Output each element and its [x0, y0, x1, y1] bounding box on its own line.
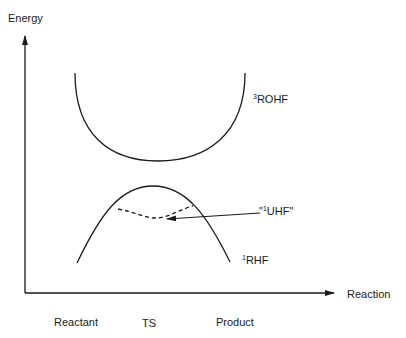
x-tick-ts-text: TS — [142, 317, 156, 329]
x-tick-product-text: Product — [216, 316, 254, 328]
energy-diagram — [0, 0, 406, 338]
uhf-pointer-arrow — [167, 213, 260, 219]
y-axis-label-text: Energy — [8, 12, 43, 24]
rohf-label-name: ROHF — [257, 93, 288, 105]
rhf-label-superscript: 1 — [242, 254, 246, 261]
x-axis-label: Reaction — [347, 288, 390, 300]
uhf-label-superscript: 1 — [263, 205, 267, 212]
rhf-label: 1RHF — [242, 254, 269, 266]
uhf-label-name: UHF — [267, 205, 290, 217]
uhf-label-quote-close: " — [289, 205, 293, 217]
y-axis-label: Energy — [8, 12, 43, 24]
x-axis-label-text: Reaction — [347, 288, 390, 300]
x-tick-reactant: Reactant — [54, 316, 98, 328]
rohf-triplet-curve — [75, 73, 245, 161]
x-tick-ts: TS — [142, 317, 156, 329]
x-tick-product: Product — [216, 316, 254, 328]
rohf-label: 3ROHF — [253, 93, 288, 105]
rhf-singlet-curve — [77, 186, 230, 263]
rohf-label-superscript: 3 — [253, 93, 257, 100]
x-tick-reactant-text: Reactant — [54, 316, 98, 328]
uhf-label: "1UHF" — [259, 205, 293, 217]
rhf-label-name: RHF — [246, 254, 269, 266]
uhf-singlet-dashed-curve — [118, 206, 193, 218]
